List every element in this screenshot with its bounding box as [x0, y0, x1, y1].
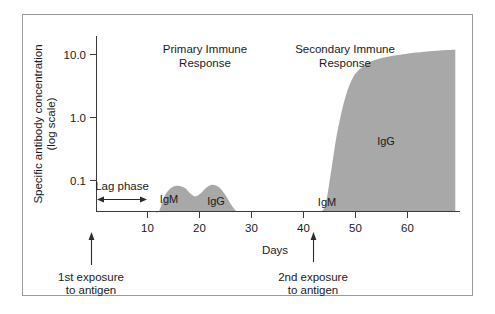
x-tick-label-50: 50 [349, 222, 362, 234]
x-tick-label-30: 30 [245, 222, 258, 234]
second-exposure-label-line2: to antigen [288, 284, 339, 296]
lag-phase-double-arrow [97, 197, 147, 203]
first-exposure-label-line2: to antigen [66, 284, 117, 296]
y-tick-label-1: 1.0 [70, 112, 86, 124]
igm-primary-label: IgM [160, 193, 178, 205]
secondary-response-title-line1: Secondary Immune [295, 43, 395, 55]
first-exposure-label-line1: 1st exposure [58, 271, 124, 283]
primary-response-title-line2: Response [179, 57, 231, 69]
secondary-response-title-line2: Response [319, 57, 371, 69]
primary-response-title-line1: Primary Immune [163, 43, 247, 55]
immune-response-chart: 10.0 1.0 0.1 10 20 30 40 50 60 Specific … [0, 0, 495, 314]
lag-phase-label: Lag phase [95, 180, 149, 192]
x-tick-label-20: 20 [193, 222, 206, 234]
x-tick-label-40: 40 [297, 222, 310, 234]
igg-primary-label: IgG [207, 195, 225, 207]
first-exposure-arrow [89, 232, 95, 265]
y-axis-title-line2: (log scale) [45, 97, 57, 150]
x-tick-label-60: 60 [401, 222, 414, 234]
x-tick-label-10: 10 [141, 222, 154, 234]
igm-secondary-label: IgM [318, 196, 336, 208]
antibody-concentration-area [97, 50, 456, 213]
y-axis-title-line1: Specific antibody concentration [32, 44, 44, 203]
y-tick-label-01: 0.1 [70, 175, 86, 187]
x-axis-title: Days [262, 244, 288, 256]
igg-secondary-label: IgG [377, 135, 395, 147]
second-exposure-arrow [311, 232, 317, 262]
y-tick-label-10: 10.0 [64, 49, 86, 61]
second-exposure-label-line1: 2nd exposure [278, 271, 348, 283]
figure-root: 10.0 1.0 0.1 10 20 30 40 50 60 Specific … [0, 0, 495, 314]
